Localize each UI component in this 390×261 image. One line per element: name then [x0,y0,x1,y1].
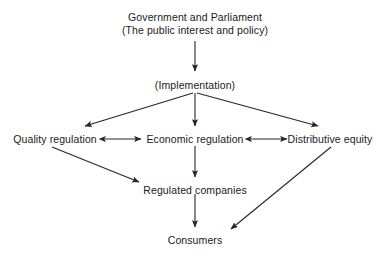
regulation-flow-diagram: Government and Parliament (The public in… [0,0,390,261]
node-economic-regulation: Economic regulation [146,133,243,146]
node-consumers: Consumers [168,234,223,247]
node-government-and-parliament: Government and Parliament (The public in… [122,11,268,37]
node-quality-regulation: Quality regulation [13,133,97,146]
node-implementation: (Implementation) [155,79,235,92]
node-regulated-companies: Regulated companies [143,184,246,197]
node-distributive-equity: Distributive equity [288,133,373,146]
arrow-layer [0,0,390,261]
edge-implementation-to-quality [85,93,193,126]
edge-quality-to-regulated-companies [52,147,139,182]
edge-implementation-to-distributive [197,93,318,126]
